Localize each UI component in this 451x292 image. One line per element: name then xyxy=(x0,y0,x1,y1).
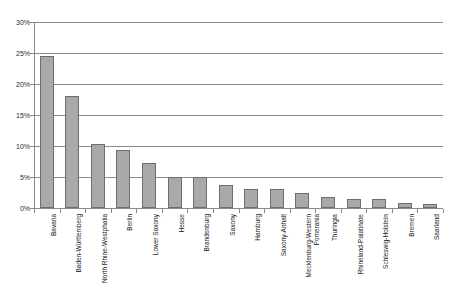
x-axis-category-label: Hesse xyxy=(178,214,186,292)
x-axis-category-label: Rhineland-Palatinate xyxy=(357,214,365,292)
y-axis-tick-label: 25% xyxy=(0,50,30,57)
x-axis-tick-mark xyxy=(290,209,291,213)
bar xyxy=(347,199,361,208)
x-axis-tick-mark xyxy=(315,209,316,213)
x-axis-category-label: Thuringia xyxy=(331,214,339,292)
x-axis-category-label: Lower Saxony xyxy=(152,214,160,292)
y-axis-tick-label: 0% xyxy=(0,205,30,212)
x-axis-category-label: Schleswig-Holstein xyxy=(382,214,390,292)
x-axis-tick-mark xyxy=(443,209,444,213)
x-axis-tick-mark xyxy=(85,209,86,213)
y-axis-tick-label: 10% xyxy=(0,143,30,150)
bar-chart: 0%5%10%15%20%25%30% BavariaBaden-Württem… xyxy=(0,0,451,292)
x-axis-tick-mark xyxy=(213,209,214,213)
bar xyxy=(116,150,130,208)
x-axis-tick-mark xyxy=(341,209,342,213)
bar xyxy=(244,189,258,208)
x-axis-tick-mark xyxy=(392,209,393,213)
bar xyxy=(270,189,284,208)
bar xyxy=(193,177,207,208)
y-axis-tick-label: 30% xyxy=(0,19,30,26)
bar xyxy=(295,193,309,209)
bar xyxy=(398,203,412,208)
x-axis-category-label: Saarland xyxy=(433,214,441,292)
bar xyxy=(142,163,156,208)
x-axis-category-label: Saxony-Anhalt xyxy=(280,214,288,292)
x-axis-category-label: Brandenburg xyxy=(203,214,211,292)
bar xyxy=(65,96,79,208)
x-axis-tick-mark xyxy=(60,209,61,213)
x-axis-tick-mark xyxy=(264,209,265,213)
bar xyxy=(423,204,437,208)
y-axis-tick-label: 20% xyxy=(0,81,30,88)
x-axis-category-label: Berlin xyxy=(126,214,134,292)
bar xyxy=(372,199,386,208)
x-axis-tick-mark xyxy=(136,209,137,213)
x-axis-tick-mark xyxy=(162,209,163,213)
x-axis-category-label: Hamburg xyxy=(254,214,262,292)
x-axis-category-label: Bremen xyxy=(408,214,416,292)
y-axis-tick-label: 5% xyxy=(0,174,30,181)
bar xyxy=(321,197,335,208)
x-axis-ticks xyxy=(34,209,443,213)
bar-series xyxy=(34,22,443,208)
y-axis-tick-label: 15% xyxy=(0,112,30,119)
bar xyxy=(219,185,233,208)
x-axis-tick-mark xyxy=(366,209,367,213)
x-axis-category-label: Mecklenburg-Western Pomerania xyxy=(305,214,320,292)
bar xyxy=(168,177,182,208)
x-axis-tick-mark xyxy=(111,209,112,213)
x-axis-tick-mark xyxy=(417,209,418,213)
y-axis-tick-labels: 0%5%10%15%20%25%30% xyxy=(0,0,34,292)
bar xyxy=(40,56,54,208)
bar xyxy=(91,144,105,208)
x-axis-tick-mark xyxy=(239,209,240,213)
x-axis-category-label: Bavaria xyxy=(50,214,58,292)
x-axis-tick-mark xyxy=(187,209,188,213)
x-axis-category-label: Saxony xyxy=(229,214,237,292)
x-axis-category-label: Baden-Württemberg xyxy=(75,214,83,292)
x-axis-category-labels: BavariaBaden-WürttembergNorth Rhine-West… xyxy=(34,214,443,292)
x-axis-category-label: North Rhine-Westphalia xyxy=(101,214,109,292)
x-axis-tick-mark xyxy=(34,209,35,213)
